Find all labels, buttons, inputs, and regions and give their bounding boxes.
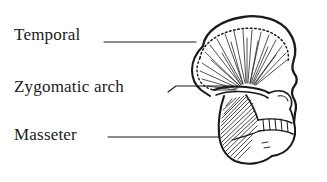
anatomy-figure: Temporal Zygomatic arch Masseter bbox=[0, 0, 327, 182]
temporal-line-dotted-lower bbox=[197, 58, 214, 90]
maxilla-outline bbox=[290, 109, 294, 122]
mandible-detail-mark-1 bbox=[262, 142, 268, 143]
temporalis-muscle-hatching bbox=[200, 30, 287, 90]
skull-illustration bbox=[0, 0, 327, 182]
orbit-outline bbox=[269, 91, 292, 109]
mandible-detail-mark-2 bbox=[264, 147, 270, 148]
orbit-detail bbox=[278, 96, 288, 101]
